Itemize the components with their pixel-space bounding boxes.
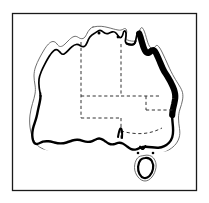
island-dot-north-west [98, 32, 101, 35]
australia-map-svg [0, 0, 209, 203]
island-dot-bass-strait-east [152, 152, 155, 155]
figure-container [0, 0, 209, 203]
island-dot-arnhem [117, 36, 120, 39]
island-dot-bass-strait-west [137, 152, 140, 155]
tasmania [138, 158, 153, 178]
